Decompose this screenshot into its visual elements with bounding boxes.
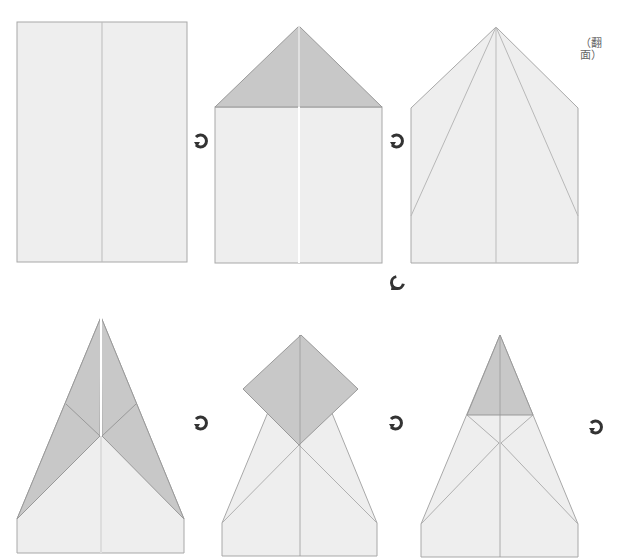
step-4	[17, 317, 184, 553]
step-5	[222, 335, 377, 556]
step-arrow-icon	[390, 135, 402, 147]
step-arrow-icon	[389, 417, 401, 429]
step-6	[421, 335, 578, 557]
step-1	[17, 22, 187, 262]
step-2	[215, 26, 382, 263]
diagram-canvas	[0, 0, 637, 559]
step-arrow-icon	[194, 135, 206, 147]
turn-arrow-icon	[389, 276, 404, 291]
step-arrow-icon	[589, 421, 601, 433]
step-3	[411, 27, 578, 263]
step-arrow-icon	[194, 417, 206, 429]
flip-over-annotation: （翻面）	[580, 38, 596, 62]
